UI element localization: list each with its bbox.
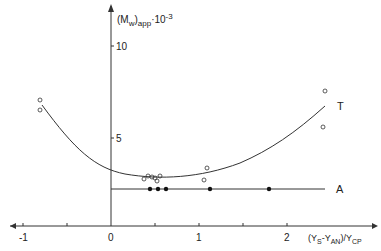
x-tick-label: -1 [19, 232, 28, 243]
series-label-T: T [337, 100, 344, 112]
series-label-A: A [336, 183, 344, 195]
x-axis-label: (YS-YAN)/YCP [308, 233, 362, 245]
curve-T [42, 105, 325, 177]
y-axis-label: (Mw)app·10-3 [117, 12, 173, 28]
y-axis-arrow-icon [108, 4, 114, 12]
y-tick-label: 10 [116, 41, 128, 52]
chart: -1 0 1 2 5 10 (Mw)app·10-3 (YS-YAN)/YCP … [0, 0, 381, 251]
x-axis-left-arrow-icon [10, 223, 16, 229]
series-T-points [38, 89, 327, 183]
x-tick-label: 2 [284, 232, 290, 243]
x-axis-arrow-icon [372, 223, 378, 229]
x-tick-label: 1 [196, 232, 202, 243]
x-tick-label: 0 [108, 232, 114, 243]
y-tick-label: 5 [116, 133, 122, 144]
